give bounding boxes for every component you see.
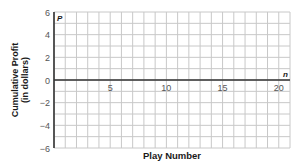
- x-axis-label: Play Number: [54, 150, 290, 161]
- axes: [54, 12, 290, 148]
- y-tick-label: 0: [45, 76, 50, 86]
- x-tick-label: 20: [274, 83, 284, 93]
- y-tick-label: −6: [40, 144, 50, 154]
- y-tick-label: −2: [40, 98, 50, 108]
- x-axis-variable-n: n: [283, 70, 288, 79]
- y-tick-label: 6: [45, 8, 50, 18]
- y-axis-label-container: Cumulative Profit (in dollars): [2, 12, 38, 148]
- x-tick-label: 5: [108, 83, 113, 93]
- y-axis-label-line-2: (in dollars): [20, 43, 30, 118]
- y-tick-label: 2: [45, 53, 50, 63]
- y-tick-label: 4: [45, 30, 50, 40]
- y-axis-label-line-1: Cumulative Profit: [10, 43, 20, 118]
- x-tick-label: 10: [161, 83, 171, 93]
- y-tick-labels: −6−4−20246: [40, 8, 50, 154]
- cumulative-profit-graph: −6−4−20246 5101520 P n: [0, 0, 298, 165]
- y-axis-label: Cumulative Profit (in dollars): [10, 43, 30, 118]
- y-axis-variable-p: P: [57, 14, 63, 23]
- y-tick-label: −4: [40, 121, 50, 131]
- x-tick-label: 15: [218, 83, 228, 93]
